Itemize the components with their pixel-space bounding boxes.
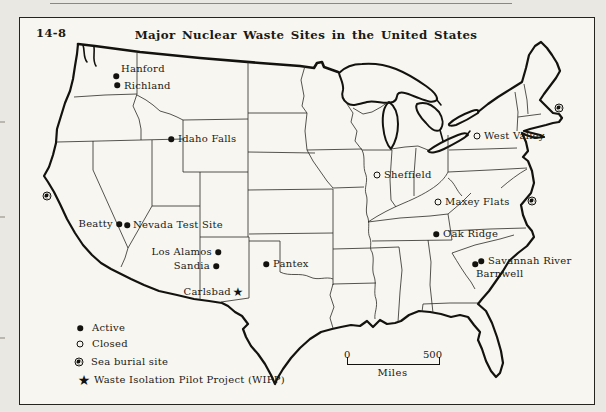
- site-label: Maxey Flats: [445, 196, 510, 207]
- site-marker-hanford: [113, 73, 119, 79]
- state-borders: [57, 53, 541, 328]
- legend-sea-burial-label: Sea burial site: [91, 356, 168, 367]
- site-marker-sandia: [213, 263, 219, 269]
- site-label: Hanford: [121, 63, 165, 74]
- site-marker-carlsbad-wipp-star: ★: [233, 286, 244, 298]
- us-map-linework: [0, 0, 606, 412]
- site-label: Idaho Falls: [178, 133, 236, 144]
- site-label: Sandia: [174, 260, 210, 271]
- sea-burial-marker-new-england: [555, 104, 564, 113]
- lake-superior: [339, 64, 437, 105]
- site-marker-beatty: [116, 221, 122, 227]
- map-title: Major Nuclear Waste Sites in the United …: [19, 28, 593, 42]
- site-label: Barnwell: [476, 268, 523, 279]
- site-marker-idaho-falls: [168, 136, 174, 142]
- legend-wipp-star-icon: ★: [78, 373, 91, 387]
- site-label: Richland: [124, 80, 171, 91]
- scanned-map-page: ★ Hanford Richland Idaho Falls Beatty Ne…: [0, 0, 606, 412]
- site-label: Beatty: [79, 218, 113, 229]
- site-marker-los-alamos: [215, 249, 221, 255]
- site-marker-pantex: [263, 261, 269, 267]
- scale-start: 0: [344, 349, 350, 360]
- legend-active-label: Active: [92, 322, 125, 333]
- site-label: Savannah River: [488, 255, 571, 266]
- site-label: Los Alamos: [152, 246, 213, 257]
- site-marker-barnwell: [472, 261, 478, 267]
- sea-burial-marker-pacific: [43, 192, 52, 201]
- site-label: Nevada Test Site: [133, 219, 223, 230]
- site-marker-richland: [114, 82, 120, 88]
- site-label: West Valley: [484, 130, 545, 141]
- site-marker-sheffield: [374, 172, 381, 179]
- legend-active-icon: [77, 325, 83, 331]
- lake-ontario: [449, 110, 479, 126]
- puget-sound: [83, 45, 96, 66]
- scale-unit: Miles: [347, 367, 438, 378]
- canada-border: [78, 44, 338, 72]
- legend-closed-icon: [77, 341, 84, 348]
- site-label: Carlsbad: [184, 286, 232, 297]
- lake-huron: [416, 103, 442, 131]
- site-label: Oak Ridge: [443, 228, 498, 239]
- lake-michigan: [383, 102, 398, 149]
- site-label: Pantex: [273, 258, 309, 269]
- legend-wipp-label: Waste Isolation Pilot Project (WIPP): [94, 374, 285, 385]
- site-marker-nevada-test-site: [124, 222, 130, 228]
- site-marker-oak-ridge: [433, 231, 439, 237]
- site-label: Sheffield: [384, 169, 432, 180]
- legend-closed-label: Closed: [92, 338, 128, 349]
- legend-sea-burial-icon: [75, 358, 84, 367]
- scale-end: 500: [423, 349, 442, 360]
- sea-burial-marker-mid-atlantic: [528, 197, 537, 206]
- site-marker-savannah-river: [478, 258, 484, 264]
- site-marker-west-valley: [474, 133, 481, 140]
- site-marker-maxey-flats: [435, 199, 442, 206]
